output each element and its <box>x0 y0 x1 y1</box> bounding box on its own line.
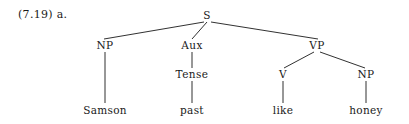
tree-node-vp: VP <box>309 40 324 51</box>
tree-node-s: S <box>203 10 211 21</box>
tree-node-tense: Tense <box>176 69 209 80</box>
tree-node-honey: honey <box>349 105 383 116</box>
tree-node-samson: Samson <box>83 105 127 116</box>
tree-node-np1: NP <box>96 40 113 51</box>
tree-node-aux: Aux <box>181 40 202 51</box>
tree-edge-vp-to-np2 <box>320 52 365 68</box>
tree-node-v: V <box>279 69 287 80</box>
figure-canvas: (7.19) a. SNPAuxVPTenseVNPSamsonpastlike… <box>0 0 409 124</box>
tree-node-like: like <box>273 105 294 116</box>
tree-edge-s-to-vp <box>211 22 318 39</box>
tree-node-np2: NP <box>357 69 374 80</box>
tree-node-past: past <box>180 105 204 116</box>
tree-edge-s-to-aux <box>192 22 207 39</box>
tree-edge-s-to-np1 <box>104 22 204 39</box>
tree-edge-vp-to-v <box>284 52 314 68</box>
